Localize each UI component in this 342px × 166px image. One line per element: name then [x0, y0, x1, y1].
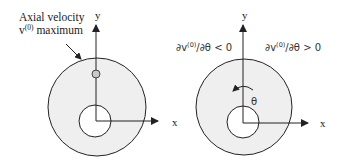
right-panel: θ ∂v(0)/∂θ < 0 ∂v(0)/∂θ > 0 y x [176, 9, 326, 155]
left-y-axis-label: y [95, 9, 101, 21]
left-panel: Axial velocity v(0) maximum y x [19, 9, 178, 156]
left-x-axis-label: x [172, 116, 178, 128]
annotation-line2: v(0) maximum [19, 23, 83, 36]
theta-label: θ [251, 96, 257, 107]
right-x-axis-label: x [320, 117, 326, 129]
annotation-pointer-arrow [66, 44, 81, 59]
positive-gradient-label: ∂v(0)/∂θ > 0 [265, 41, 321, 53]
velocity-maximum-marker [92, 70, 100, 78]
right-y-axis-label: y [242, 9, 248, 21]
negative-gradient-label: ∂v(0)/∂θ < 0 [176, 41, 232, 53]
diagram-canvas: Axial velocity v(0) maximum y x θ ∂v(0)/… [0, 0, 342, 166]
